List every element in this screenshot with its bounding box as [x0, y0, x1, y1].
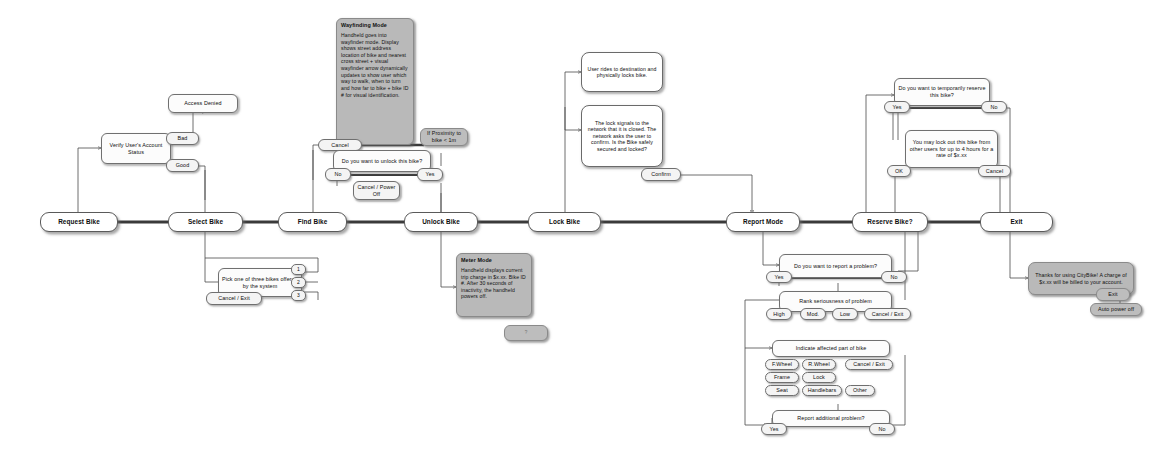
reserve-yes-button[interactable]: Yes — [884, 101, 910, 113]
severity-high-label: High — [773, 311, 785, 318]
reserve-info-label: You may lock out this bike from other us… — [908, 139, 995, 159]
severity-cancel-button[interactable]: Cancel / Exit — [864, 308, 911, 320]
reserve-ok-label: OK — [895, 168, 903, 175]
spine-node-lock-bike[interactable]: Lock Bike — [528, 212, 601, 232]
good-label: Good — [176, 162, 190, 169]
flowchart-canvas: Request Bike Select Bike Find Bike Unloc… — [0, 0, 1170, 463]
verify-good-option[interactable]: Good — [166, 159, 199, 172]
affected-part-prompt: Indicate affected part of bike — [772, 340, 890, 357]
bike-option-1[interactable]: 1 — [291, 264, 306, 275]
spine-node-exit[interactable]: Exit — [980, 212, 1053, 232]
spine-label: Find Bike — [298, 218, 328, 226]
proximity-condition-note: If Proximity to bike < 1m — [420, 128, 468, 146]
lock-confirm-label: The lock signals to the network that it … — [586, 120, 658, 152]
wayfinding-cancel-label: Cancel — [331, 142, 348, 149]
part-front-wheel-button[interactable]: F.Wheel — [765, 359, 799, 370]
access-denied-node: Access Denied — [168, 94, 238, 113]
additional-yes-label: Yes — [769, 426, 778, 433]
spine-label: Request Bike — [58, 218, 100, 226]
wayfinding-mode-title: Wayfinding Mode — [341, 22, 409, 29]
lock-confirm-button[interactable]: Confirm — [641, 168, 681, 181]
part-frame-label: Frame — [774, 374, 790, 381]
report-problem-no-button[interactable]: No — [881, 271, 907, 283]
part-other-button[interactable]: Other — [845, 385, 875, 396]
part-lock-button[interactable]: Lock — [802, 372, 836, 383]
additional-no-label: No — [878, 426, 885, 433]
part-rear-wheel-label: R.Wheel — [808, 361, 829, 368]
proximity-label: If Proximity to bike < 1m — [423, 130, 465, 143]
spine-label: Unlock Bike — [422, 218, 460, 226]
spine-label: Report Mode — [743, 218, 783, 226]
meter-mode-button[interactable]: ? — [504, 325, 548, 341]
report-yes-label: Yes — [774, 274, 783, 281]
severity-low-button[interactable]: Low — [832, 308, 858, 320]
verify-bad-option[interactable]: Bad — [166, 132, 199, 145]
cancel-power-off-label: Cancel / Power Off — [356, 184, 397, 197]
part-seat-button[interactable]: Seat — [765, 385, 799, 396]
spine-node-select-bike[interactable]: Select Bike — [168, 212, 243, 232]
report-problem-prompt: Do you want to report a problem? — [779, 254, 892, 278]
meter-mode-button-label: ? — [525, 330, 528, 336]
reserve-no-label: No — [990, 104, 997, 111]
ride-note-label: User rides to destination and physically… — [586, 66, 658, 79]
part-cancel-label: Cancel / Exit — [853, 361, 885, 368]
part-front-wheel-label: F.Wheel — [772, 361, 792, 368]
bike-option-1-label: 1 — [297, 266, 300, 272]
unlock-no-button[interactable]: No — [325, 168, 351, 181]
spine-node-find-bike[interactable]: Find Bike — [278, 212, 347, 232]
bike-option-3-label: 3 — [297, 292, 300, 298]
reserve-yes-label: Yes — [892, 104, 901, 111]
severity-mod-button[interactable]: Mod. — [800, 308, 826, 320]
spine-node-unlock-bike[interactable]: Unlock Bike — [404, 212, 478, 232]
additional-problem-label: Report additional problem? — [797, 415, 864, 422]
meter-mode-title: Meter Mode — [461, 257, 527, 264]
select-cancel-exit-button[interactable]: Cancel / Exit — [206, 292, 262, 305]
additional-problem-yes-button[interactable]: Yes — [761, 423, 787, 435]
unlock-yes-button[interactable]: Yes — [417, 168, 443, 181]
ride-to-destination-note: User rides to destination and physically… — [581, 52, 663, 92]
thanks-label: Thanks for using CityBike! A charge of $… — [1033, 272, 1129, 285]
part-rear-wheel-button[interactable]: R.Wheel — [802, 359, 836, 370]
part-handlebars-button[interactable]: Handlebars — [802, 385, 842, 396]
meter-mode-body: Handheld displays current trip charge in… — [461, 267, 527, 300]
part-seat-label: Seat — [776, 387, 788, 394]
rank-seriousness-label: Rank seriousness of problem — [799, 298, 872, 305]
part-other-label: Other — [853, 387, 867, 394]
reserve-info-note: You may lock out this bike from other us… — [905, 130, 998, 168]
exit-button-label: Exit — [1108, 291, 1117, 298]
part-handlebars-label: Handlebars — [808, 387, 837, 394]
pick-bike-label: Pick one of three bikes offered by the s… — [221, 276, 299, 289]
wayfinding-mode-body: Handheld goes into wayfinder mode. Displ… — [341, 32, 409, 98]
affected-part-label: Indicate affected part of bike — [796, 345, 867, 352]
additional-problem-no-button[interactable]: No — [869, 423, 895, 435]
lock-confirm-button-label: Confirm — [651, 171, 671, 178]
reserve-cancel-button[interactable]: Cancel — [978, 165, 1011, 177]
report-problem-yes-button[interactable]: Yes — [766, 271, 792, 283]
report-problem-label: Do you want to report a problem? — [794, 263, 877, 270]
severity-low-label: Low — [840, 311, 850, 318]
part-frame-button[interactable]: Frame — [765, 372, 799, 383]
select-cancel-label: Cancel / Exit — [218, 295, 250, 302]
bike-option-3[interactable]: 3 — [291, 290, 306, 301]
access-denied-label: Access Denied — [184, 100, 221, 107]
exit-button[interactable]: Exit — [1096, 288, 1130, 301]
auto-power-off-label: Auto power off — [1098, 306, 1134, 313]
lock-confirm-note: The lock signals to the network that it … — [581, 105, 663, 167]
spine-node-reserve-bike[interactable]: Reserve Bike? — [852, 212, 928, 232]
severity-high-button[interactable]: High — [766, 308, 792, 320]
spine-node-request-bike[interactable]: Request Bike — [40, 212, 118, 232]
part-cancel-exit-button[interactable]: Cancel / Exit — [845, 359, 893, 370]
spine-node-report-mode[interactable]: Report Mode — [726, 212, 800, 232]
severity-mod-label: Mod. — [807, 311, 819, 318]
bike-option-2[interactable]: 2 — [291, 277, 306, 288]
verify-account-status-prompt: Verify User's Account Status — [101, 133, 171, 164]
verify-label: Verify User's Account Status — [104, 142, 168, 155]
report-no-label: No — [890, 274, 897, 281]
bike-option-2-label: 2 — [297, 279, 300, 285]
reserve-ok-button[interactable]: OK — [887, 165, 911, 177]
part-lock-label: Lock — [813, 374, 825, 381]
reserve-no-button[interactable]: No — [981, 101, 1007, 113]
auto-power-off-note: Auto power off — [1090, 303, 1142, 316]
severity-cancel-label: Cancel / Exit — [872, 311, 904, 318]
cancel-power-off-button[interactable]: Cancel / Power Off — [353, 181, 400, 200]
